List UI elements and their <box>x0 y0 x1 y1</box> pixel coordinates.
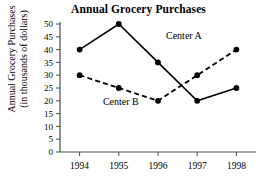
data-point-marker <box>155 60 161 66</box>
y-axis-tick-label: 40 <box>44 45 54 55</box>
x-axis-tick-label: 1998 <box>227 161 246 171</box>
x-axis-tick-label: 1996 <box>149 161 168 171</box>
x-axis-tick-label: 1994 <box>70 161 89 171</box>
data-point-marker <box>234 47 240 53</box>
series-annotation-center-a: Center A <box>166 30 203 41</box>
x-axis-tick-label: 1995 <box>109 161 128 171</box>
data-point-marker <box>77 72 83 78</box>
y-axis-tick-label: 5 <box>49 134 54 144</box>
series-annotations: Center ACenter B <box>103 30 203 106</box>
data-point-marker <box>116 85 122 91</box>
series-line-center-b <box>80 50 237 101</box>
x-axis-tick-marks <box>80 152 237 156</box>
y-axis-tick-label: 15 <box>44 109 54 119</box>
data-point-marker <box>234 85 240 91</box>
data-point-marker <box>194 98 200 104</box>
y-axis-tick-label: 35 <box>44 58 54 68</box>
y-axis-tick-label: 20 <box>44 96 54 106</box>
y-axis-tick-label: 0 <box>49 147 54 157</box>
x-axis-tick-label: 1997 <box>188 161 207 171</box>
chart-container: Annual Grocery Purchases Annual Grocery … <box>0 0 277 178</box>
x-axis-tick-labels: 19941995199619971998 <box>70 161 246 171</box>
y-axis-tick-label: 50 <box>44 19 54 29</box>
series-annotation-center-b: Center B <box>103 96 139 107</box>
y-axis-tick-label: 25 <box>44 83 54 93</box>
y-axis-tick-label: 45 <box>44 32 54 42</box>
data-point-marker <box>194 72 200 78</box>
data-point-marker <box>116 21 122 27</box>
data-series-markers <box>77 21 240 104</box>
y-axis-tick-labels: 05101520253035404550 <box>44 19 54 157</box>
y-axis-tick-label: 10 <box>44 122 54 132</box>
chart-plot-area: 05101520253035404550 1994199519961997199… <box>0 0 277 178</box>
y-axis-tick-label: 30 <box>44 70 54 80</box>
data-point-marker <box>155 98 161 104</box>
data-point-marker <box>77 47 83 53</box>
